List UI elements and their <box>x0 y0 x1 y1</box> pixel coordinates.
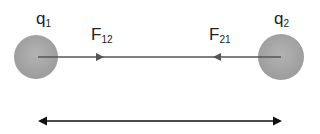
charge-q2-label: q2 <box>274 10 289 29</box>
distance-arrow-right-head-icon <box>273 117 282 126</box>
charge-q1-label: q1 <box>36 10 51 29</box>
force-f21-arrowhead-icon <box>213 53 221 61</box>
distance-arrow-left-head-icon <box>38 117 47 126</box>
force-f12-label: F12 <box>91 26 113 45</box>
force-f12-arrowhead-icon <box>96 53 104 61</box>
force-f21-label: F21 <box>209 26 231 45</box>
